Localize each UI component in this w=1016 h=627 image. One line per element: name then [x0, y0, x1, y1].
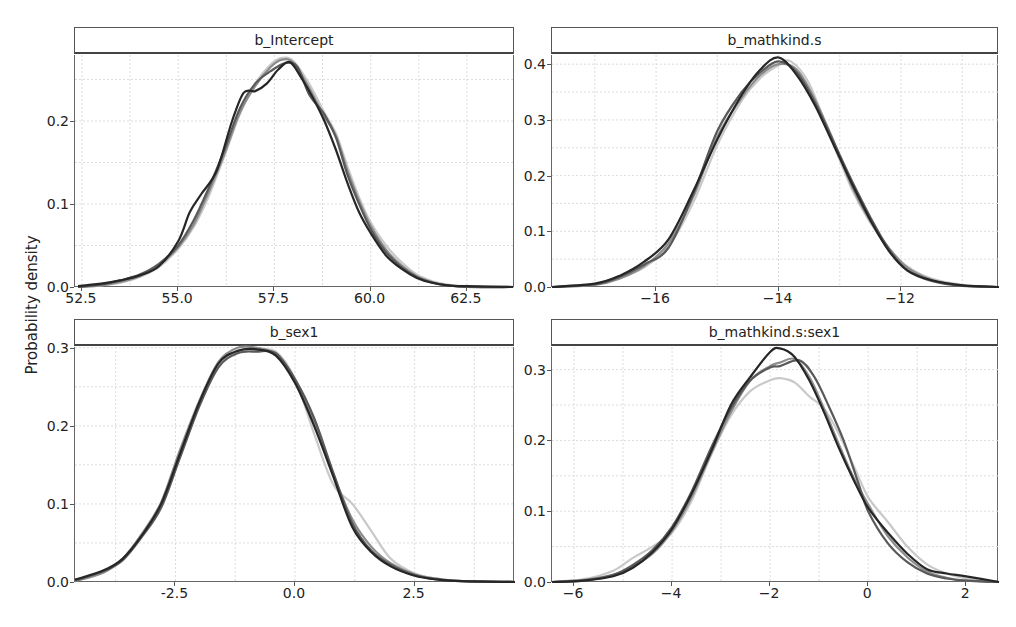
- y-tick-mark: [70, 204, 74, 205]
- density-curve-chain-1: [552, 348, 999, 582]
- y-tick-label: 0.3: [506, 362, 546, 378]
- facet-panel: b_mathkind.s:sex10.00.10.20.3−6−4−202: [551, 319, 998, 582]
- x-tick-mark: [177, 287, 178, 291]
- x-tick-mark: [370, 287, 371, 291]
- y-tick-mark: [70, 426, 74, 427]
- plot-area: [74, 347, 514, 582]
- x-tick-mark: [655, 287, 656, 291]
- y-tick-label: 0.2: [29, 113, 69, 129]
- y-tick-mark: [70, 504, 74, 505]
- y-tick-mark: [547, 582, 551, 583]
- density-curve-chain-2: [552, 360, 999, 582]
- density-curve-chain-2: [78, 62, 513, 287]
- x-tick-label: 62.5: [450, 290, 481, 306]
- x-tick-mark: [466, 287, 467, 291]
- x-tick-mark: [867, 582, 868, 586]
- x-tick-mark: [778, 287, 779, 291]
- x-tick-mark: [81, 287, 82, 291]
- facet-strip-title: b_mathkind.s:sex1: [551, 319, 998, 346]
- y-tick-label: 0.0: [506, 574, 546, 590]
- facet-panel: b_sex10.00.10.20.3-2.50.02.5: [74, 319, 514, 582]
- plot-area: [74, 55, 514, 287]
- facet-strip-title: b_Intercept: [74, 27, 514, 54]
- x-tick-mark: [671, 582, 672, 586]
- x-tick-label: 57.5: [258, 290, 289, 306]
- y-tick-mark: [547, 176, 551, 177]
- x-tick-label: −16: [640, 290, 670, 306]
- density-curve-chain-3: [78, 59, 513, 287]
- y-tick-label: 0.2: [506, 168, 546, 184]
- x-tick-mark: [414, 582, 415, 586]
- y-tick-mark: [547, 231, 551, 232]
- x-tick-label: 2.5: [402, 585, 424, 601]
- y-tick-mark: [70, 348, 74, 349]
- y-tick-label: 0.1: [506, 223, 546, 239]
- x-tick-mark: [273, 287, 274, 291]
- x-tick-label: −12: [885, 290, 915, 306]
- y-tick-label: 0.0: [29, 279, 69, 295]
- density-plot-svg: [552, 347, 999, 582]
- x-tick-label: 60.0: [354, 290, 385, 306]
- y-tick-label: 0.1: [506, 503, 546, 519]
- y-tick-label: 0.2: [506, 432, 546, 448]
- y-tick-label: 0.3: [506, 112, 546, 128]
- y-tick-label: 0.2: [29, 418, 69, 434]
- y-tick-label: 0.0: [29, 574, 69, 590]
- density-curve-chain-1: [552, 57, 999, 287]
- facet-strip-title: b_sex1: [74, 319, 514, 346]
- x-tick-mark: [573, 582, 574, 586]
- x-tick-label: 0: [863, 585, 872, 601]
- density-curve-chain-3: [552, 358, 999, 582]
- y-tick-label: 0.1: [29, 496, 69, 512]
- y-tick-mark: [70, 121, 74, 122]
- x-tick-label: 52.5: [65, 290, 96, 306]
- x-tick-mark: [294, 582, 295, 586]
- facet-panel: b_mathkind.s0.00.10.20.30.4−16−14−12: [551, 27, 998, 287]
- y-tick-mark: [547, 120, 551, 121]
- x-tick-label: 0.0: [283, 585, 305, 601]
- density-curve-chain-4: [552, 60, 999, 287]
- y-tick-label: 0.3: [29, 340, 69, 356]
- x-tick-label: −4: [661, 585, 682, 601]
- density-curve-chain-3: [552, 64, 999, 287]
- plot-area: [551, 55, 998, 287]
- x-tick-mark: [769, 582, 770, 586]
- x-tick-label: 55.0: [162, 290, 193, 306]
- y-tick-mark: [70, 287, 74, 288]
- density-curve-chain-2: [552, 61, 999, 287]
- density-curve-chain-4: [552, 378, 999, 582]
- y-tick-label: 0.1: [29, 196, 69, 212]
- y-tick-mark: [547, 370, 551, 371]
- y-tick-mark: [547, 287, 551, 288]
- x-tick-label: 2: [961, 585, 970, 601]
- facet-panel: b_Intercept0.00.10.252.555.057.560.062.5: [74, 27, 514, 287]
- density-plot-svg: [75, 347, 515, 582]
- density-plot-svg: [552, 55, 999, 287]
- x-tick-mark: [900, 287, 901, 291]
- y-tick-label: 0.0: [506, 279, 546, 295]
- x-tick-mark: [965, 582, 966, 586]
- density-curve-chain-1: [78, 62, 513, 287]
- density-plot-svg: [75, 55, 515, 287]
- x-tick-label: -2.5: [161, 585, 188, 601]
- x-tick-label: −14: [763, 290, 793, 306]
- facet-strip-title: b_mathkind.s: [551, 27, 998, 54]
- x-tick-label: −6: [563, 585, 584, 601]
- y-tick-mark: [547, 440, 551, 441]
- y-tick-mark: [70, 582, 74, 583]
- y-tick-mark: [547, 511, 551, 512]
- y-tick-label: 0.4: [506, 56, 546, 72]
- x-tick-mark: [174, 582, 175, 586]
- x-tick-label: −2: [759, 585, 780, 601]
- y-tick-mark: [547, 64, 551, 65]
- plot-area: [551, 347, 998, 582]
- density-curve-chain-4: [78, 58, 513, 287]
